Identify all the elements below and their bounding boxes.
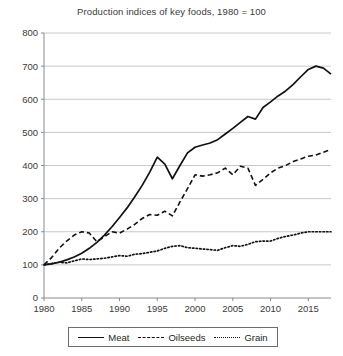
x-tick-label: 2005 [222, 303, 243, 314]
y-tick-label: 200 [22, 226, 38, 237]
gridlines [44, 33, 331, 265]
series-line-grain [44, 232, 331, 265]
legend-label: Oilseeds [168, 332, 205, 343]
y-tick-label: 300 [22, 193, 38, 204]
legend-label: Grain [244, 332, 267, 343]
x-tick-label: 2000 [184, 303, 205, 314]
legend-entry-meat[interactable]: Meat [78, 332, 129, 343]
x-axis-tick-labels: 19801985199019952000200520102015 [33, 303, 318, 314]
legend-entry-oilseeds[interactable]: Oilseeds [138, 332, 205, 343]
axis-ticks [41, 33, 308, 301]
y-tick-label: 100 [22, 259, 38, 270]
legend-line-swatch-dashed-icon [138, 337, 164, 338]
x-tick-label: 2015 [298, 303, 319, 314]
legend-entry-grain[interactable]: Grain [214, 332, 267, 343]
chart-legend: MeatOilseedsGrain [68, 327, 278, 347]
legend-line-swatch-solid-icon [78, 337, 104, 338]
y-tick-label: 800 [22, 27, 38, 38]
x-tick-label: 1985 [71, 303, 92, 314]
y-tick-label: 0 [33, 292, 38, 303]
x-tick-label: 2010 [260, 303, 281, 314]
legend-line-swatch-dotted-icon [214, 337, 240, 338]
y-axis-tick-labels: 0100200300400500600700800 [22, 27, 38, 303]
legend-label: Meat [108, 332, 129, 343]
x-tick-label: 1980 [33, 303, 54, 314]
x-tick-label: 1990 [109, 303, 130, 314]
chart-figure: Production indices of key foods, 1980 = … [0, 0, 343, 356]
y-tick-label: 700 [22, 61, 38, 72]
x-tick-label: 1995 [147, 303, 168, 314]
y-tick-label: 500 [22, 127, 38, 138]
y-tick-label: 600 [22, 94, 38, 105]
y-tick-label: 400 [22, 160, 38, 171]
chart-canvas: 0100200300400500600700800 19801985199019… [0, 0, 343, 356]
plot-area: 0100200300400500600700800 19801985199019… [0, 0, 343, 356]
